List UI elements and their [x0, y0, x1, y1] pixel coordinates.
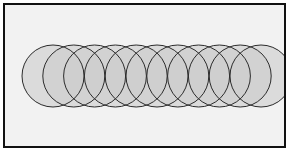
- circle-chain-diagram: [0, 0, 292, 156]
- circles-group: [22, 45, 292, 107]
- figure-root: [0, 0, 292, 156]
